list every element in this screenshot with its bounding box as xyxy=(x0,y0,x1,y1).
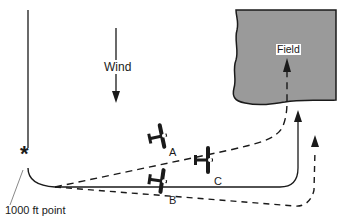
key-point-asterisk-icon: * xyxy=(20,143,29,165)
field-area xyxy=(233,10,336,105)
aircraft-a-label: A xyxy=(169,147,176,158)
wind-label: Wind xyxy=(103,60,132,74)
turn-path xyxy=(28,168,55,187)
aircraft-b-icon xyxy=(146,166,168,194)
aircraft-c-icon xyxy=(194,146,213,174)
diagram-graphics xyxy=(0,0,346,219)
aircraft-c-label: C xyxy=(214,176,222,187)
aircraft-b-label: B xyxy=(169,195,176,206)
thousand-ft-point-label: 1000 ft point xyxy=(5,205,66,216)
aircraft-a-icon xyxy=(146,122,170,151)
path-c xyxy=(55,120,298,187)
leader-line xyxy=(10,170,23,205)
emergency-landing-diagram: Wind Field A B C * 1000 ft point xyxy=(0,0,346,219)
field-label: Field xyxy=(276,44,301,55)
